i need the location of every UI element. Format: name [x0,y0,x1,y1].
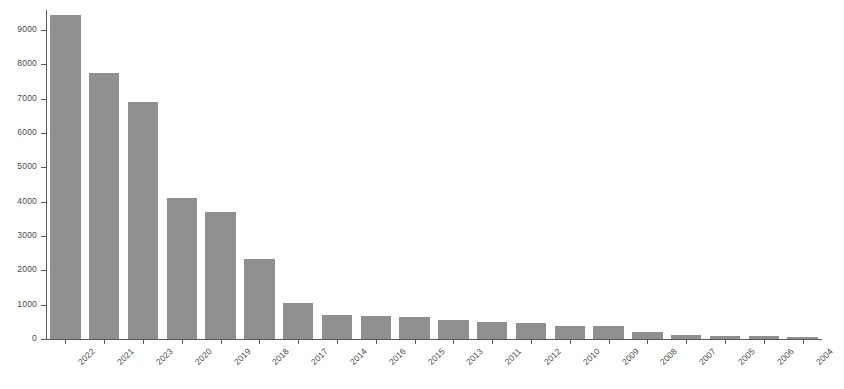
x-axis-tick-mark [492,340,493,344]
plot-area [47,8,822,339]
x-axis-tick-label: 2005 [736,346,757,367]
x-axis-tick-label: 2022 [76,346,97,367]
x-axis-tick-label: 2004 [813,346,834,367]
x-axis-tick-mark [609,340,610,344]
x-axis-tick-label: 2010 [581,346,602,367]
x-axis-tick-mark [104,340,105,344]
y-axis-tick-label: 7000 [17,93,37,103]
bar [89,73,119,339]
bar [671,335,701,339]
bar [205,212,235,339]
x-axis-tick-label: 2006 [775,346,796,367]
y-axis-tick-label: 0 [32,333,37,343]
y-axis-tick-label: 6000 [17,127,37,137]
x-axis-tick-label: 2011 [503,346,524,367]
y-axis-tick: 6000 [0,133,46,134]
x-axis-tick-mark [143,340,144,344]
bar [50,15,80,339]
bar [516,323,546,339]
y-axis-tick-label: 2000 [17,264,37,274]
x-axis-tick-mark [376,340,377,344]
y-axis-tick: 3000 [0,236,46,237]
x-axis-tick-mark [686,340,687,344]
y-axis-tick-mark [41,64,46,65]
y-axis-tick-label: 1000 [17,299,37,309]
x-axis-tick-mark [570,340,571,344]
x-axis-tick-label: 2014 [348,346,369,367]
bar-chart: 0100020003000400050006000700080009000 20… [0,0,844,389]
x-axis-tick-label: 2013 [464,346,485,367]
bar [710,336,740,339]
y-axis-tick: 1000 [0,305,46,306]
y-axis-tick-mark [41,133,46,134]
bar [438,320,468,339]
y-axis-tick: 9000 [0,30,46,31]
x-axis-tick-label: 2012 [542,346,563,367]
x-axis-tick-label: 2020 [193,346,214,367]
bar [399,317,429,339]
x-axis-tick-label: 2008 [658,346,679,367]
y-axis-tick-mark [41,30,46,31]
bar [283,303,313,339]
bar [244,259,274,339]
y-axis-tick-mark [41,305,46,306]
x-axis-line [46,339,822,340]
x-axis-tick-mark [453,340,454,344]
x-axis-tick-mark [298,340,299,344]
x-axis-tick-label: 2021 [115,346,136,367]
y-axis-tick: 8000 [0,64,46,65]
bar [128,102,158,339]
x-axis-tick-label: 2015 [425,346,446,367]
y-axis-tick-mark [41,167,46,168]
y-axis-tick-label: 8000 [17,58,37,68]
y-axis-tick-mark [41,99,46,100]
y-axis-tick: 7000 [0,99,46,100]
x-axis-tick-mark [337,340,338,344]
y-axis-tick: 2000 [0,270,46,271]
bar [593,326,623,339]
bar [167,198,197,339]
x-axis-tick-mark [259,340,260,344]
x-axis-tick-mark [531,340,532,344]
x-axis-tick-mark [221,340,222,344]
x-axis-tick-label: 2007 [697,346,718,367]
bar [322,315,352,339]
y-axis-tick-label: 4000 [17,196,37,206]
y-axis-tick-mark [41,270,46,271]
y-axis-tick-label: 5000 [17,161,37,171]
x-axis-tick-label: 2023 [154,346,175,367]
bar [787,337,817,339]
bar [749,336,779,339]
y-axis-tick-mark [41,202,46,203]
x-axis-tick-mark [725,340,726,344]
y-axis-tick-mark [41,339,46,340]
x-axis-tick-mark [415,340,416,344]
x-axis-tick-mark [803,340,804,344]
x-axis-tick-label: 2009 [619,346,640,367]
bar [555,326,585,339]
y-axis-tick-mark [41,236,46,237]
x-axis-tick-mark [65,340,66,344]
x-axis-tick-label: 2016 [387,346,408,367]
bar [632,332,662,339]
y-axis-tick: 5000 [0,167,46,168]
y-axis-tick-label: 3000 [17,230,37,240]
x-axis-tick-label: 2017 [309,346,330,367]
x-axis-tick-label: 2018 [270,346,291,367]
x-axis-tick-mark [764,340,765,344]
x-axis-tick-mark [647,340,648,344]
y-axis-tick-label: 9000 [17,24,37,34]
bar [477,322,507,340]
y-axis-tick: 0 [0,339,46,340]
y-axis-tick: 4000 [0,202,46,203]
x-axis-tick-mark [182,340,183,344]
bar [361,316,391,339]
x-axis-tick-label: 2019 [231,346,252,367]
